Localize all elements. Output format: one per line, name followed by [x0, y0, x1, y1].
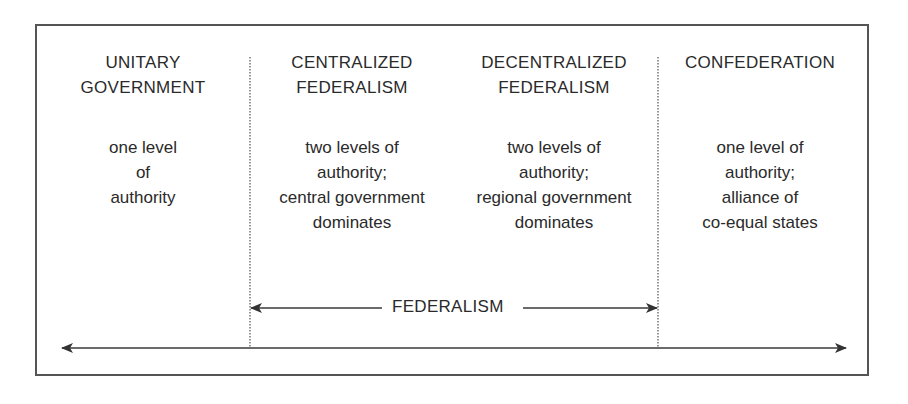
- column-title-centralized: CENTRALIZED FEDERALISM: [252, 50, 452, 100]
- column-desc-decentralized: two levels of authority; regional govern…: [452, 135, 656, 235]
- column-title-confederation: CONFEDERATION: [662, 50, 858, 75]
- federalism-span-label: FEDERALISM: [388, 297, 508, 317]
- column-desc-centralized: two levels of authority; central governm…: [252, 135, 452, 235]
- column-title-unitary: UNITARY GOVERNMENT: [52, 50, 234, 100]
- column-desc-unitary: one level of authority: [52, 135, 234, 210]
- column-title-decentralized: DECENTRALIZED FEDERALISM: [452, 50, 656, 100]
- column-desc-confederation: one level of authority; alliance of co-e…: [662, 135, 858, 235]
